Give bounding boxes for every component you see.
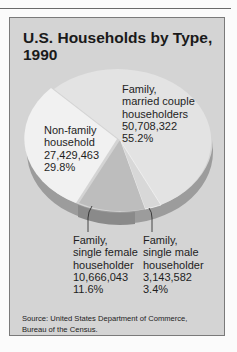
- label-line: household: [44, 136, 99, 148]
- label-count: 3,143,582: [143, 271, 204, 283]
- label-non-family: Non-family household 27,429,463 29.8%: [44, 124, 99, 173]
- label-line: single male: [143, 246, 204, 258]
- label-line: single female: [73, 246, 138, 258]
- label-married-couple: Family, married couple householders 50,7…: [122, 83, 195, 144]
- label-single-male: Family, single male householder 3,143,58…: [143, 234, 204, 295]
- label-line: Family,: [143, 234, 204, 246]
- label-line: Non-family: [44, 124, 99, 136]
- label-percent: 11.6%: [73, 283, 138, 295]
- label-line: householders: [122, 108, 195, 120]
- label-line: householder: [143, 259, 204, 271]
- source-line-1: Source: United States Department of Comm…: [22, 313, 222, 324]
- label-count: 10,666,043: [73, 271, 138, 283]
- label-line: householder: [73, 259, 138, 271]
- label-line: Family,: [73, 234, 138, 246]
- source-line-2: Bureau of the Census.: [22, 324, 222, 335]
- label-line: married couple: [122, 95, 195, 107]
- label-count: 50,708,322: [122, 120, 195, 132]
- label-percent: 3.4%: [143, 283, 204, 295]
- label-percent: 55.2%: [122, 132, 195, 144]
- label-count: 27,429,463: [44, 149, 99, 161]
- label-percent: 29.8%: [44, 161, 99, 173]
- pie-chart: [0, 0, 237, 352]
- label-line: Family,: [122, 83, 195, 95]
- label-single-female: Family, single female householder 10,666…: [73, 234, 138, 295]
- source-note: Source: United States Department of Comm…: [22, 313, 222, 335]
